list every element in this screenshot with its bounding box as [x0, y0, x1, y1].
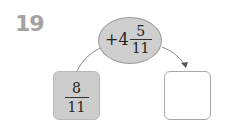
start-value-box: 8 11 — [53, 71, 100, 120]
answer-box[interactable] — [164, 71, 211, 120]
operation-sign: + — [105, 30, 118, 49]
connector-line-left — [77, 48, 100, 71]
operation-expression: + 4 5 11 — [105, 24, 152, 55]
connector-arrow-right — [162, 47, 185, 65]
operation-fraction: 5 11 — [130, 24, 152, 55]
operation-whole: 4 — [118, 30, 128, 49]
start-numerator: 8 — [72, 81, 81, 95]
operation-denominator: 11 — [132, 41, 150, 55]
arrow-head-icon — [181, 62, 188, 68]
operation-numerator: 5 — [136, 24, 145, 38]
start-denominator: 11 — [68, 100, 86, 114]
fraction-bar — [65, 97, 89, 98]
start-fraction: 8 11 — [54, 81, 99, 114]
